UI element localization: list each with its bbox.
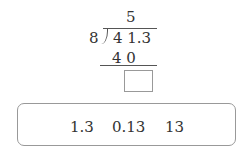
quotient: 5 <box>126 10 136 25</box>
choices-box: 1.3 0.13 13 <box>17 103 236 146</box>
choice-item[interactable]: 1.3 <box>70 120 94 135</box>
divisor: 8 <box>89 31 99 46</box>
division-bracket <box>101 29 108 44</box>
answer-blank-box[interactable] <box>124 70 153 92</box>
choice-item[interactable]: 0.13 <box>112 120 145 135</box>
subtraction-line <box>100 65 157 66</box>
choice-item[interactable]: 13 <box>165 120 184 135</box>
dividend: 4 1.3 <box>113 31 151 46</box>
subtraction-value: 4 0 <box>112 51 136 66</box>
